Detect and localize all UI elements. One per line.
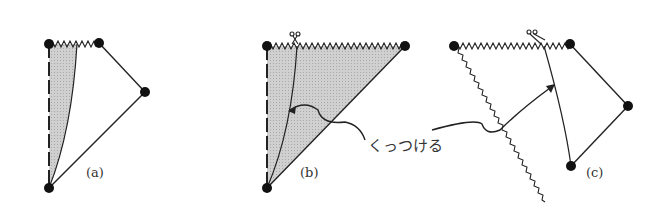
edge [99,43,145,92]
scissors-icon [290,32,300,44]
edge [570,44,628,106]
vertex-dot [566,161,576,171]
curve [544,46,571,166]
vertex-dot [44,183,54,193]
panel-a: (a) [44,38,150,193]
vertex-dot [623,101,633,111]
vertex-dot [262,183,272,193]
shaded-region [49,44,77,188]
vertex-dot [44,39,54,49]
edge [571,106,628,166]
vertex-dot [565,39,575,49]
vertex-dot [140,87,150,97]
panel-b: (b) [262,32,410,193]
vertex-dot [449,41,459,51]
singularity-zigzag [454,43,570,49]
panel-c: (c) [432,30,633,202]
scissors-icon [527,30,545,44]
panel-label-b: (b) [300,165,318,180]
arrowhead-icon [546,84,555,93]
vertex-dot [400,41,410,51]
arrow-curve [432,88,550,132]
vertex-dot [262,41,272,51]
panel-label-c: (c) [586,165,603,180]
panel-label-a: (a) [86,165,104,180]
diagonal-zigzag [454,46,545,202]
annotation-text: くっつける [368,137,443,155]
penrose-diagram-figure: (a) (b) くっつける [0,0,667,205]
vertex-dot [94,38,104,48]
